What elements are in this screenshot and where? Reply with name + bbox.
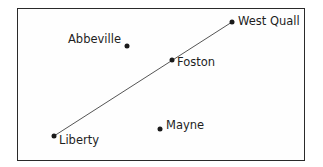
town-marker-foston (170, 58, 175, 63)
town-label-liberty: Liberty (59, 135, 99, 147)
town-label-mayne: Mayne (166, 120, 204, 132)
town-marker-liberty (52, 134, 57, 139)
town-label-west-quall: West Quall (238, 16, 300, 28)
town-label-foston: Foston (177, 57, 215, 69)
town-label-abbeville: Abbeville (68, 34, 121, 46)
town-marker-west-quall (230, 20, 235, 25)
town-marker-abbeville (125, 44, 130, 49)
town-marker-mayne (158, 127, 163, 132)
